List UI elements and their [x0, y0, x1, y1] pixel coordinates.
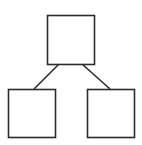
node-box-right-child — [88, 90, 135, 138]
node-box-left-child — [9, 90, 56, 138]
nodes — [9, 16, 135, 138]
edges — [34, 64, 110, 89]
node-box-root — [48, 16, 95, 65]
connector-root-to-right-child — [82, 64, 110, 89]
tree-diagram — [0, 0, 142, 145]
connector-root-to-left-child — [34, 64, 59, 89]
